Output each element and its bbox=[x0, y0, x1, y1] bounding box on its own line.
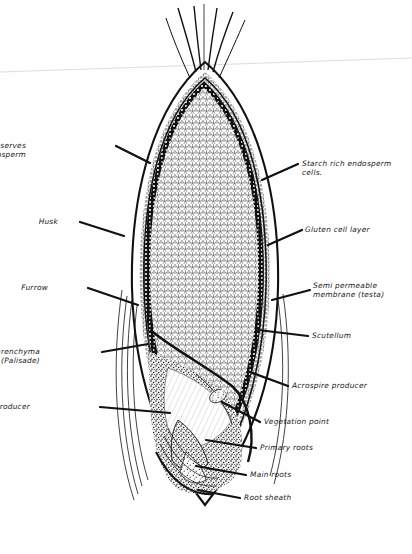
barley-grain-section-illustration: Protein reservesfor endospermHuskFurrowP… bbox=[0, 0, 412, 554]
label-stem-producer: Stem producer bbox=[0, 402, 31, 411]
label-furrow: Furrow bbox=[21, 283, 48, 292]
label-gluten-cell-layer: Gluten cell layer bbox=[305, 225, 371, 234]
label-semi-permeable-membrane: Semi permeablemembrane (testa) bbox=[313, 281, 384, 299]
label-vegetation-point: Vegetation point bbox=[264, 417, 330, 426]
label-main-roots: Main roots bbox=[250, 470, 291, 479]
label-parenchyma: Parenchyma(Palisade) bbox=[0, 347, 40, 365]
label-protein-reserves: Protein reservesfor endosperm bbox=[0, 141, 26, 159]
label-root-sheath: Root sheath bbox=[244, 493, 291, 502]
label-acrospire-producer: Acrospire producer bbox=[291, 381, 368, 390]
label-scutellum: Scutellum bbox=[312, 331, 351, 340]
figure-canvas: Protein reservesfor endospermHuskFurrowP… bbox=[0, 0, 412, 554]
label-primary-roots: Primary roots bbox=[260, 443, 313, 452]
label-husk: Husk bbox=[39, 217, 59, 226]
